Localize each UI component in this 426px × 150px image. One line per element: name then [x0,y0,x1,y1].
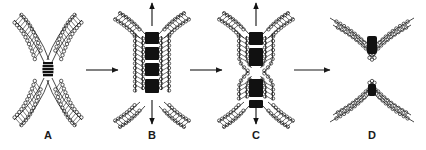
panel-label-b: B [148,129,156,141]
panel-label-a: A [44,129,52,141]
panel-a-contact-band [42,62,53,76]
panel-label-c: C [252,129,260,141]
membrane-fusion-figure: A B C D [0,0,426,150]
panel-label-d: D [368,129,376,141]
figure-canvas: A B C D [0,0,426,150]
figure-background [0,0,426,150]
